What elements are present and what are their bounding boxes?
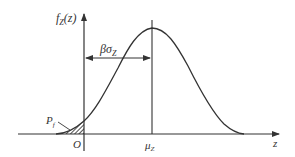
reliability-index-label: βσZ [99,42,117,58]
failure-region-shading [58,121,84,134]
mean-label: μZ [144,139,155,153]
reliability-pdf-diagram: fZ(z) βσZ Pf O μZ z [0,0,295,157]
y-axis-label: fZ(z) [56,11,76,27]
x-axis-label: z [272,137,278,149]
failure-probability-label: Pf [45,114,56,129]
failure-prob-leader-line [58,122,70,130]
origin-label: O [73,138,81,150]
